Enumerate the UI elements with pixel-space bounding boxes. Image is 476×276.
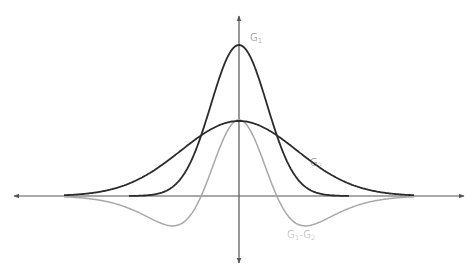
label-g2: G2 — [310, 157, 322, 170]
diagram-canvas: G1 G2 G1-G2 — [0, 0, 476, 276]
label-g1-minus-g2: G1-G2 — [287, 229, 315, 242]
label-g1: G1 — [250, 32, 262, 45]
